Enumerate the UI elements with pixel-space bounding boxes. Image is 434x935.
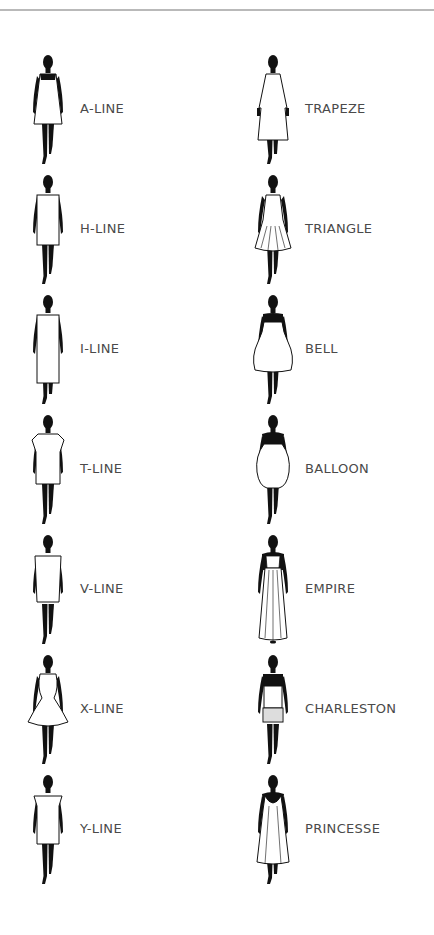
empire-silhouette-icon — [243, 530, 303, 650]
style-label: Y-LINE — [80, 821, 122, 836]
bell-silhouette-icon — [243, 290, 303, 410]
trapeze-silhouette-icon — [243, 50, 303, 170]
style-label: I-LINE — [80, 341, 119, 356]
style-label: TRIANGLE — [305, 221, 372, 236]
style-label: PRINCESSE — [305, 821, 380, 836]
style-v-line: V-LINE — [18, 530, 228, 650]
style-label: BALLOON — [305, 461, 369, 476]
top-divider — [0, 9, 434, 11]
style-princesse: PRINCESSE — [243, 770, 434, 890]
style-triangle: TRIANGLE — [243, 170, 434, 290]
style-label: T-LINE — [80, 461, 122, 476]
style-label: TRAPEZE — [305, 101, 366, 116]
style-label: X-LINE — [80, 701, 124, 716]
style-label: H-LINE — [80, 221, 125, 236]
a-line-silhouette-icon — [18, 50, 78, 170]
style-balloon: BALLOON — [243, 410, 434, 530]
style-label: BELL — [305, 341, 338, 356]
t-line-silhouette-icon — [18, 410, 78, 530]
i-line-silhouette-icon — [18, 290, 78, 410]
style-i-line: I-LINE — [18, 290, 228, 410]
v-line-silhouette-icon — [18, 530, 78, 650]
style-label: A-LINE — [80, 101, 124, 116]
y-line-silhouette-icon — [18, 770, 78, 890]
charleston-silhouette-icon — [243, 650, 303, 770]
style-h-line: H-LINE — [18, 170, 228, 290]
style-x-line: X-LINE — [18, 650, 228, 770]
style-label: CHARLESTON — [305, 701, 396, 716]
x-line-silhouette-icon — [18, 650, 78, 770]
style-empire: EMPIRE — [243, 530, 434, 650]
style-trapeze: TRAPEZE — [243, 50, 434, 170]
style-t-line: T-LINE — [18, 410, 228, 530]
style-label: V-LINE — [80, 581, 124, 596]
style-a-line: A-LINE — [18, 50, 228, 170]
balloon-silhouette-icon — [243, 410, 303, 530]
style-y-line: Y-LINE — [18, 770, 228, 890]
style-label: EMPIRE — [305, 581, 355, 596]
style-charleston: CHARLESTON — [243, 650, 434, 770]
princesse-silhouette-icon — [243, 770, 303, 890]
style-bell: BELL — [243, 290, 434, 410]
h-line-silhouette-icon — [18, 170, 78, 290]
triangle-silhouette-icon — [243, 170, 303, 290]
